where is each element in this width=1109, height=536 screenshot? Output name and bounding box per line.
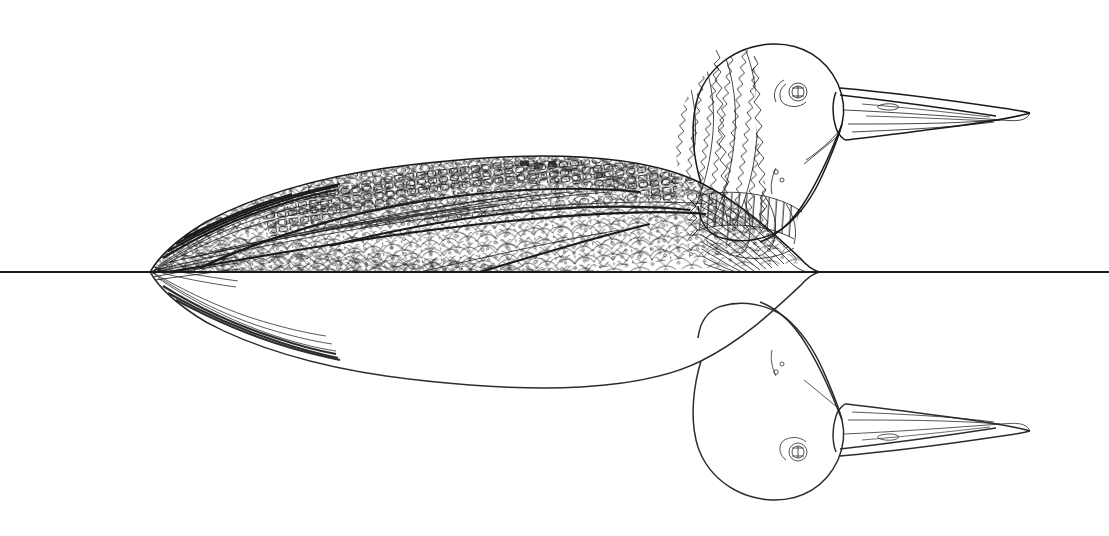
- loon-illustration: [0, 0, 1109, 536]
- artwork-canvas: Loon on water with reflection loon black…: [0, 0, 1109, 536]
